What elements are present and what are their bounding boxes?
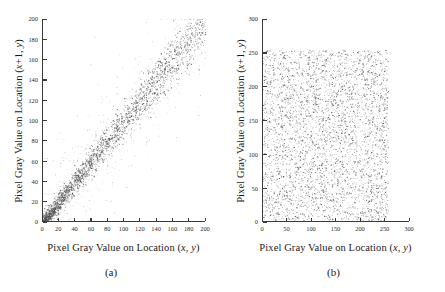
x-axis-label-a: Pixel Gray Value on Location (x, y) [34, 242, 214, 253]
x-ticklabel-b-100: 100 [301, 225, 321, 232]
x-tick-b-0 [262, 218, 263, 222]
y-ticklabel-a-80: 80 [32, 137, 38, 144]
x-tick-a-40 [74, 218, 75, 222]
scatter-points-b [263, 19, 410, 222]
y-tick-a-80 [43, 140, 47, 141]
y-tick-a-100 [43, 120, 47, 121]
y-ticklabel-b-50: 50 [252, 185, 258, 192]
x-ticklabel-b-200: 200 [350, 225, 370, 232]
plot-area-b: 050100150200250300050100150200250300 [262, 19, 409, 222]
x-tick-a-180 [188, 218, 189, 222]
x-ticklabel-b-250: 250 [375, 225, 395, 232]
plot-area-a: 0204060801001201401601802000204060801001… [42, 19, 205, 222]
panel-caption-b: (b) [222, 266, 445, 278]
x-tick-a-140 [156, 218, 157, 222]
x-ticklabel-b-50: 50 [277, 225, 297, 232]
x-tick-b-50 [286, 218, 287, 222]
y-tick-a-180 [43, 39, 47, 40]
y-tick-b-250 [263, 52, 267, 53]
y-ticklabel-a-100: 100 [28, 117, 38, 124]
x-tick-b-300 [409, 218, 410, 222]
x-ticklabel-b-0: 0 [252, 225, 272, 232]
y-tick-b-50 [263, 188, 267, 189]
x-ticklabel-b-150: 150 [326, 225, 346, 232]
y-ticklabel-a-180: 180 [28, 36, 38, 43]
y-tick-a-40 [43, 181, 47, 182]
x-tick-b-200 [360, 218, 361, 222]
y-tick-b-100 [263, 154, 267, 155]
scatter-points-a [43, 19, 206, 222]
x-tick-a-200 [205, 218, 206, 222]
x-axis-label-b: Pixel Gray Value on Location (x, y) [246, 242, 426, 253]
y-tick-a-60 [43, 161, 47, 162]
panel-b: Pixel Gray Value on Location (x+1, y) 05… [222, 0, 445, 292]
y-ticklabel-a-140: 140 [28, 76, 38, 83]
x-ticklabel-b-300: 300 [399, 225, 419, 232]
x-tick-a-100 [123, 218, 124, 222]
y-ticklabel-a-60: 60 [32, 158, 38, 165]
y-ticklabel-b-100: 100 [248, 151, 258, 158]
x-tick-b-250 [384, 218, 385, 222]
y-ticklabel-b-150: 150 [248, 117, 258, 124]
x-tick-a-160 [172, 218, 173, 222]
x-tick-b-150 [335, 218, 336, 222]
y-ticklabel-a-200: 200 [28, 15, 38, 22]
y-ticklabel-a-40: 40 [32, 178, 38, 185]
y-tick-a-200 [43, 19, 47, 20]
y-tick-a-20 [43, 201, 47, 202]
y-axis-label-b: Pixel Gray Value on Location (x+1, y) [235, 21, 246, 221]
y-ticklabel-b-200: 200 [248, 83, 258, 90]
y-ticklabel-a-20: 20 [32, 198, 38, 205]
y-tick-a-120 [43, 100, 47, 101]
x-tick-a-80 [107, 218, 108, 222]
x-tick-a-0 [42, 218, 43, 222]
x-tick-a-60 [90, 218, 91, 222]
figure-root: Pixel Gray Value on Location (x+1, y) 02… [0, 0, 445, 292]
y-tick-a-0 [43, 222, 47, 223]
x-tick-b-100 [311, 218, 312, 222]
y-tick-b-0 [263, 222, 267, 223]
x-tick-a-20 [58, 218, 59, 222]
y-tick-b-150 [263, 120, 267, 121]
y-tick-b-200 [263, 86, 267, 87]
y-ticklabel-a-120: 120 [28, 97, 38, 104]
panel-caption-a: (a) [0, 266, 222, 278]
y-ticklabel-a-160: 160 [28, 56, 38, 63]
panel-a: Pixel Gray Value on Location (x+1, y) 02… [0, 0, 222, 292]
y-ticklabel-b-250: 250 [248, 49, 258, 56]
y-tick-b-300 [263, 19, 267, 20]
x-tick-a-120 [139, 218, 140, 222]
x-ticklabel-a-200: 200 [195, 225, 215, 232]
y-ticklabel-b-300: 300 [248, 15, 258, 22]
y-tick-a-160 [43, 59, 47, 60]
y-axis-label-a: Pixel Gray Value on Location (x+1, y) [13, 21, 24, 221]
y-tick-a-140 [43, 79, 47, 80]
